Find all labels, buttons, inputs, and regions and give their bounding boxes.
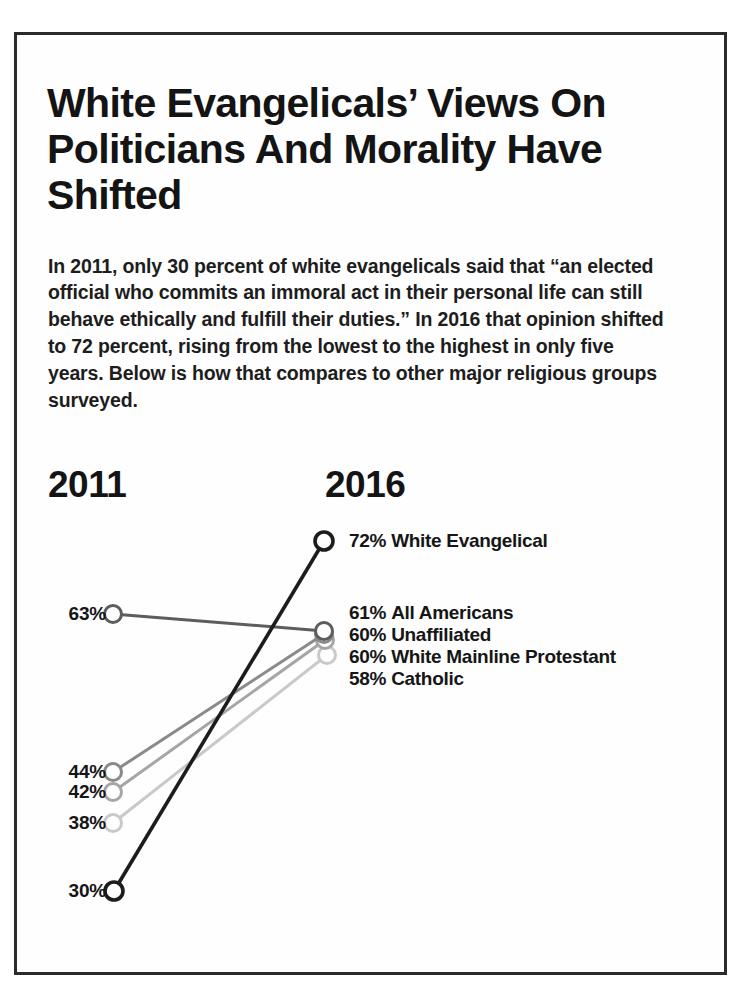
right-label-pct: 60% xyxy=(349,646,386,667)
slope-chart: 2011 2016 xyxy=(0,0,751,1000)
right-label-white-mainline-protestant: 60%White Mainline Protestant xyxy=(349,646,616,668)
right-label-name: Unaffiliated xyxy=(391,624,491,645)
right-label-pct: 61% xyxy=(349,602,386,623)
series-line-unaffiliated xyxy=(105,626,333,781)
series-line-white-mainline-protestant xyxy=(105,632,334,801)
right-label-catholic: 58%Catholic xyxy=(349,668,464,690)
series-line-all-americans xyxy=(105,606,333,640)
series-line-white-evangelical xyxy=(105,532,333,900)
right-label-white-evangelical: 72%White Evangelical xyxy=(349,530,548,552)
axis-label-2016: 2016 xyxy=(325,464,405,506)
right-label-name: Catholic xyxy=(391,668,464,689)
right-label-all-americans: 61%All Americans xyxy=(349,602,513,624)
right-label-name: White Evangelical xyxy=(391,530,547,551)
axis-label-2011: 2011 xyxy=(48,464,126,506)
right-label-unaffiliated: 60%Unaffiliated xyxy=(349,624,491,646)
left-value-44: 44% xyxy=(44,761,106,783)
left-value-63: 63% xyxy=(44,603,106,625)
right-label-pct: 58% xyxy=(349,668,386,689)
right-label-pct: 72% xyxy=(349,530,386,551)
right-label-pct: 60% xyxy=(349,624,386,645)
left-value-38: 38% xyxy=(44,812,106,834)
left-value-42: 42% xyxy=(44,781,106,803)
right-label-name: White Mainline Protestant xyxy=(391,646,616,667)
right-label-name: All Americans xyxy=(391,602,513,623)
series-line-catholic xyxy=(105,647,336,832)
left-value-30: 30% xyxy=(44,880,106,902)
